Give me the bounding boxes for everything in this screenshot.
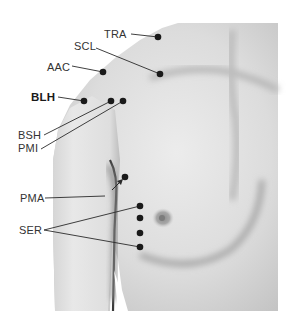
marker-pma [122,174,129,181]
label-pmi: PMI [18,143,38,154]
marker-blh [81,98,88,105]
label-ser: SER [19,225,42,236]
label-tra: TRA [104,29,127,40]
label-bsh: BSH [18,130,41,141]
marker-ser-4 [137,244,144,251]
marker-ser-2 [137,215,144,222]
marker-ser-1 [137,203,144,210]
label-pma: PMA [20,193,44,204]
marker-aac [100,69,107,76]
marker-ser-3 [137,230,144,237]
label-aac: AAC [47,62,70,73]
label-scl: SCL [74,41,96,52]
marker-pmi [120,98,127,105]
anatomy-figure [0,0,292,333]
marker-bsh [108,98,115,105]
marker-tra [155,34,162,41]
marker-scl [157,71,164,78]
nipple-center [159,215,165,221]
label-blh: BLH [31,92,55,103]
